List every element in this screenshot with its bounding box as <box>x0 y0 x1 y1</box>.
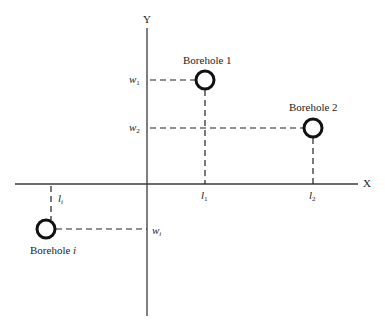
x-axis-label: X <box>363 178 371 189</box>
li-label: li <box>58 193 63 206</box>
wi-label: wi <box>152 225 161 238</box>
w1-label: w1 <box>129 74 140 87</box>
w2-label: w2 <box>129 122 140 135</box>
borehole-2-label: Borehole 2 <box>289 102 338 113</box>
borehole-1-label: Borehole 1 <box>183 55 232 66</box>
borehole-i-marker <box>37 220 55 238</box>
borehole-1-marker <box>196 71 214 89</box>
l2-label: l2 <box>309 190 316 203</box>
y-axis-label: Y <box>143 14 151 25</box>
borehole-i-label: Borehole i <box>30 245 76 256</box>
borehole-2-marker <box>304 119 322 137</box>
diagram-canvas <box>0 0 385 331</box>
l1-label: l1 <box>201 190 208 203</box>
